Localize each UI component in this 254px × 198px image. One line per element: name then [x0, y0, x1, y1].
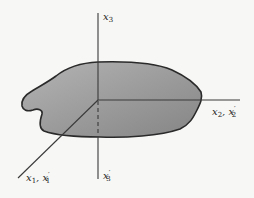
x1-prime-label-sub: 1	[46, 177, 50, 185]
x1-label: x1, x′1	[26, 172, 50, 185]
x3-label: x3	[103, 12, 113, 24]
x2-prime-label-sub: 2	[232, 111, 236, 119]
x3-prime-label-sub: 3	[106, 175, 110, 183]
coordinate-diagram	[0, 0, 254, 198]
x2-label: x2, x′2	[212, 106, 236, 119]
x3-prime-label: x′3	[103, 170, 111, 183]
x3-label-sub: 3	[109, 16, 113, 24]
